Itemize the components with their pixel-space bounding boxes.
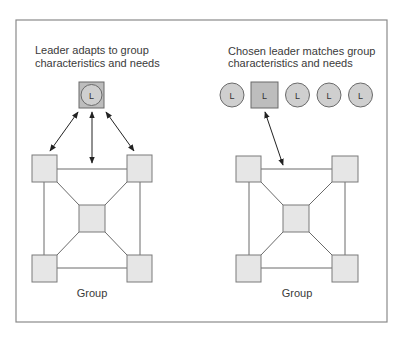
- group-member-node: [332, 255, 358, 282]
- adaptive-leader-node: L: [79, 82, 104, 108]
- group-member-node: [32, 255, 57, 282]
- svg-text:L: L: [262, 91, 267, 101]
- group-member-node: [127, 155, 152, 182]
- right-group-network: [236, 156, 358, 282]
- right-group-label: Group: [282, 287, 313, 299]
- group-member-node: [236, 156, 261, 182]
- group-member-node: [332, 156, 358, 182]
- left-caption-line2: characteristics and needs: [35, 57, 160, 69]
- candidate-leader-circle: L: [317, 83, 341, 107]
- group-member-node: [127, 255, 152, 282]
- svg-text:L: L: [326, 91, 331, 101]
- right-panel: Chosen leader matches group characterist…: [220, 45, 375, 299]
- svg-text:L: L: [358, 91, 363, 101]
- candidate-leader-circle: L: [349, 83, 373, 107]
- right-caption-line2: characteristics and needs: [228, 57, 353, 69]
- group-member-node: [236, 255, 261, 282]
- candidate-leaders: L L L L L: [220, 82, 373, 108]
- left-caption-line1: Leader adapts to group: [35, 44, 149, 56]
- double-arrow-icon: [106, 112, 134, 151]
- group-member-node: [32, 155, 57, 182]
- group-member-node: [283, 205, 309, 232]
- leadership-diagram: Leader adapts to group characteristics a…: [0, 0, 403, 337]
- right-caption-line1: Chosen leader matches group: [228, 45, 375, 57]
- double-arrow-icon: [50, 112, 78, 151]
- candidate-leader-circle: L: [220, 83, 244, 107]
- left-panel: Leader adapts to group characteristics a…: [32, 44, 160, 299]
- left-group-label: Group: [77, 287, 108, 299]
- svg-text:L: L: [295, 91, 300, 101]
- svg-text:L: L: [229, 91, 234, 101]
- leader-label: L: [89, 91, 94, 101]
- candidate-leader-circle: L: [286, 83, 310, 107]
- left-group-network: [32, 155, 152, 282]
- group-member-node: [79, 205, 105, 232]
- chosen-leader-square: L: [251, 82, 278, 108]
- double-arrow-icon: [265, 112, 283, 165]
